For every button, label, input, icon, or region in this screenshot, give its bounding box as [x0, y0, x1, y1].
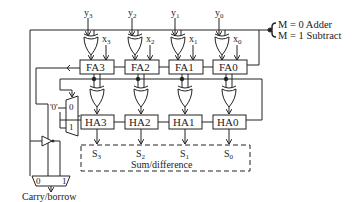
sum-difference-label: Sum/difference	[131, 160, 192, 170]
half-adder-ha1: HA1	[173, 117, 194, 128]
mux-top-in1-label: 1	[69, 123, 74, 132]
mode-adder-label: M = 0 Adder	[278, 20, 332, 31]
full-adder-fa3: FA3	[86, 62, 105, 73]
input-y0-label: y0	[215, 8, 224, 20]
full-adder-fa1: FA1	[175, 62, 194, 73]
full-adder-fa0: FA0	[219, 62, 238, 73]
input-x3-label: x3	[102, 34, 111, 46]
mux-const-zero-label: '0'	[50, 103, 58, 112]
half-adder-ha3: HA3	[85, 117, 106, 128]
mode-subtract-label: M = 1 Subtract	[278, 31, 341, 42]
mux-bottom-in0-label: 0	[36, 177, 41, 186]
input-x2-label: x2	[146, 34, 155, 46]
mux-bottom-in1-label: 1	[62, 177, 67, 186]
input-y2-label: y2	[128, 8, 137, 20]
input-x0-label: x0	[233, 34, 242, 46]
output-s0-label: S0	[224, 149, 233, 161]
carry-borrow-label: Carry/borrow	[22, 192, 76, 202]
input-y3-label: y3	[84, 8, 93, 20]
mux-top-in0-label: 0	[69, 103, 74, 112]
input-y1-label: y1	[171, 8, 180, 20]
input-x1-label: x1	[189, 34, 198, 46]
full-adder-fa2: FA2	[131, 62, 150, 73]
half-adder-ha0: HA0	[217, 117, 238, 128]
half-adder-ha2: HA2	[129, 117, 150, 128]
output-s3-label: S3	[92, 149, 101, 161]
